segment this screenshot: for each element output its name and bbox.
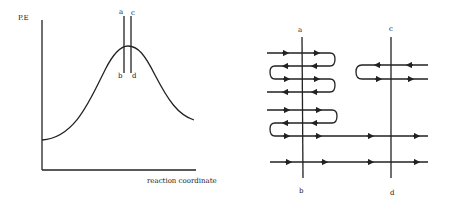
label-a-right: a (298, 26, 302, 34)
energy-curve (42, 46, 194, 140)
trajectory-panel (267, 37, 428, 178)
trajectory-recrossing-1 (267, 53, 335, 92)
energy-profile-panel: a c b d P.E reaction coordinate (18, 8, 217, 185)
diagram-canvas: a c b d P.E reaction coordinate (0, 0, 450, 204)
x-axis-label: reaction coordinate (147, 177, 217, 185)
surface-line-ab (302, 37, 303, 178)
label-b-right: b (299, 187, 304, 195)
label-d-left: d (132, 72, 137, 80)
label-d-right: d (390, 189, 395, 197)
label-a-left: a (119, 8, 123, 16)
label-c-left: c (131, 9, 135, 17)
y-axis-label: P.E (18, 14, 29, 22)
label-c-right: c (389, 25, 393, 33)
trajectory-recrossing-2 (267, 110, 428, 136)
label-b-left: b (118, 72, 123, 80)
trajectory-reflected (356, 65, 428, 79)
